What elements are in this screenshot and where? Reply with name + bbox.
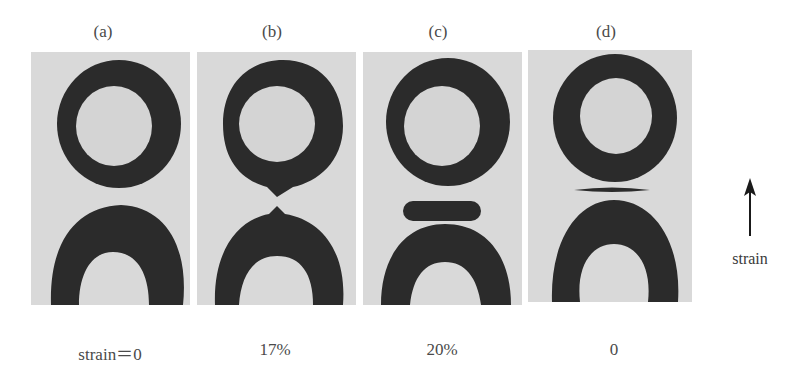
caption-b: 17% [215, 340, 335, 360]
panel-a-image [31, 52, 190, 305]
panel-label-d: (d) [576, 22, 636, 42]
droplet-pair-graphic [528, 50, 692, 302]
droplet-pair-graphic [363, 52, 522, 305]
panel-label-b: (b) [242, 22, 302, 42]
strain-direction-label: strain [725, 250, 775, 268]
panel-d-image [528, 50, 692, 302]
panel-label-a: (a) [73, 22, 133, 42]
up-arrow-icon [740, 178, 760, 238]
caption-d: 0 [554, 340, 674, 360]
panel-b-image [197, 52, 356, 305]
caption-a: strain＝0 [50, 340, 170, 365]
panel-label-c: (c) [408, 22, 468, 42]
droplet-pair-graphic [197, 52, 356, 305]
panel-c-image [363, 52, 522, 305]
droplet-pair-graphic [31, 52, 190, 305]
caption-c: 20% [382, 340, 502, 360]
